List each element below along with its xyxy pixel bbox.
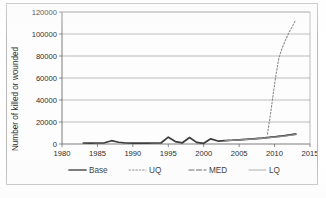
y-tick-label: 60000 xyxy=(36,74,57,83)
y-axis-tick-labels: 020000400006000080000100000120000 xyxy=(32,8,57,149)
tick-marks xyxy=(59,12,310,147)
legend-label-base[interactable]: Base xyxy=(89,166,108,175)
y-tick-label: 40000 xyxy=(36,96,57,105)
chart-legend: BaseUQMEDLQ xyxy=(69,166,280,175)
series-lines xyxy=(83,20,296,144)
chart-frame: Number of killed or wounded 020000400006… xyxy=(6,3,318,185)
series-line-uq xyxy=(267,20,295,134)
series-line-med xyxy=(225,134,296,141)
x-tick-label: 2005 xyxy=(231,149,248,158)
x-tick-label: 2015 xyxy=(302,149,317,158)
x-tick-label: 1990 xyxy=(124,149,141,158)
y-tick-label: 120000 xyxy=(32,8,57,17)
legend-label-lq[interactable]: LQ xyxy=(269,166,280,175)
line-chart: Number of killed or wounded 020000400006… xyxy=(7,4,317,184)
y-tick-label: 0 xyxy=(53,140,57,149)
legend-label-uq[interactable]: UQ xyxy=(149,166,161,175)
x-tick-label: 2010 xyxy=(266,149,283,158)
x-tick-label: 1995 xyxy=(160,149,177,158)
y-axis-title: Number of killed or wounded xyxy=(11,46,20,151)
x-tick-label: 1980 xyxy=(54,149,71,158)
y-tick-label: 80000 xyxy=(36,52,57,61)
x-axis-tick-labels: 19801985199019952000200520102015 xyxy=(54,149,317,158)
x-tick-label: 2000 xyxy=(195,149,212,158)
x-tick-label: 1985 xyxy=(89,149,106,158)
gridlines xyxy=(62,12,310,122)
legend-label-med[interactable]: MED xyxy=(209,166,227,175)
series-line-base xyxy=(83,134,296,143)
y-tick-label: 100000 xyxy=(32,30,57,39)
y-tick-label: 20000 xyxy=(36,118,57,127)
